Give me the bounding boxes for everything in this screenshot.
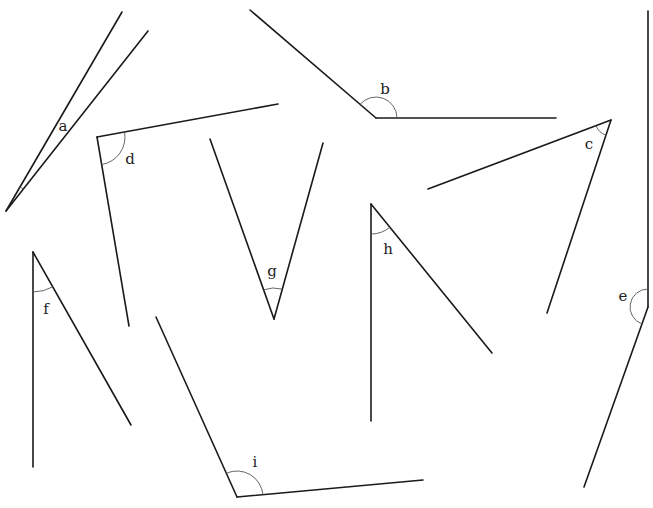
angle-c-ray-1 xyxy=(428,120,611,189)
angle-d-ray-2 xyxy=(97,137,129,326)
angle-i-ray-1 xyxy=(156,317,237,497)
angle-a-ray-2 xyxy=(6,31,148,211)
angle-label-b: b xyxy=(380,80,390,98)
angle-f-arc xyxy=(33,287,53,292)
angle-f: f xyxy=(33,252,131,467)
angle-f-ray-2 xyxy=(33,252,131,425)
angle-g-ray-1 xyxy=(210,139,274,319)
angle-g: g xyxy=(210,139,323,319)
angle-h-arc xyxy=(371,227,390,234)
angle-i-arc xyxy=(226,471,263,495)
angle-label-g: g xyxy=(267,262,277,280)
angle-h-ray-2 xyxy=(371,204,492,353)
angle-label-d: d xyxy=(125,150,135,168)
angle-label-h: h xyxy=(383,240,393,258)
angle-e-ray-2 xyxy=(584,307,648,487)
angle-i: i xyxy=(156,317,423,497)
angle-label-e: e xyxy=(619,287,628,305)
angle-d-arc xyxy=(102,132,125,165)
angle-diagram: abcdefghi xyxy=(0,0,653,508)
angle-d-ray-1 xyxy=(97,104,278,137)
angle-b: b xyxy=(250,10,556,118)
angle-c-arc xyxy=(596,126,606,136)
angle-g-ray-2 xyxy=(274,143,323,319)
angle-b-arc xyxy=(360,97,397,118)
angle-a: a xyxy=(6,12,148,211)
angle-e: e xyxy=(584,11,648,487)
angle-label-a: a xyxy=(59,117,68,135)
angle-i-ray-2 xyxy=(237,480,423,497)
angle-b-ray-1 xyxy=(250,10,376,118)
angle-c: c xyxy=(428,120,611,313)
angle-c-ray-2 xyxy=(547,120,611,313)
angle-d: d xyxy=(97,104,278,326)
angle-label-c: c xyxy=(585,135,593,153)
angle-label-f: f xyxy=(43,300,50,318)
angle-a-arc xyxy=(20,187,23,189)
angle-g-arc xyxy=(264,288,283,290)
angle-h: h xyxy=(371,204,492,421)
angle-label-i: i xyxy=(253,453,258,471)
angle-e-arc xyxy=(630,289,648,324)
